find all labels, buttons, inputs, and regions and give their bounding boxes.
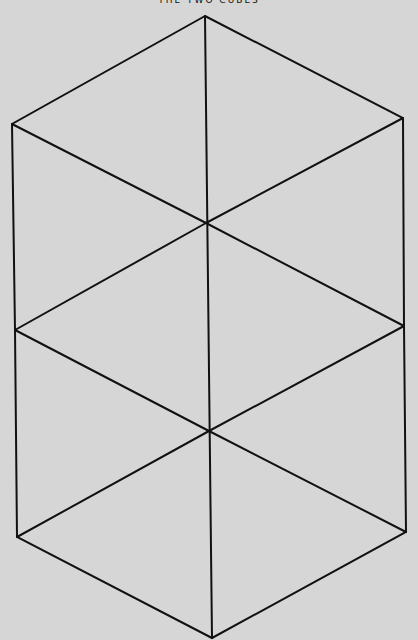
two-cubes-diagram [0, 0, 418, 640]
center-vertical-edge [205, 16, 212, 638]
edge [209, 431, 406, 532]
edge [206, 223, 404, 326]
edge [206, 118, 403, 223]
edge [17, 431, 209, 537]
edge [209, 326, 404, 431]
edge [15, 223, 206, 330]
edge [12, 124, 206, 223]
edge [15, 330, 209, 431]
